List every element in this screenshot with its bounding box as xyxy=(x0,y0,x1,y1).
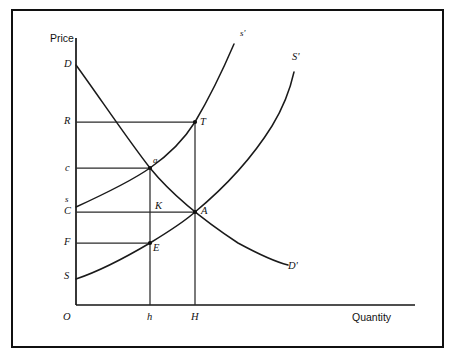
x-axis-title: Quantity xyxy=(352,312,391,323)
price-label-S: S xyxy=(64,271,69,282)
price-label-C: C xyxy=(64,206,71,217)
point-label-a: a xyxy=(153,156,158,165)
quantity-label-H: H xyxy=(191,312,199,323)
price-label-F: F xyxy=(64,237,70,248)
price-label-s: s xyxy=(65,195,69,204)
point-dot-E xyxy=(148,241,152,245)
supply-curve-S-prime xyxy=(76,72,294,279)
curve-label-D-prime: D' xyxy=(288,261,298,272)
point-dot-a xyxy=(148,166,152,170)
quantity-label-O: O xyxy=(63,312,71,323)
price-label-D: D xyxy=(64,59,72,70)
curve-label-s-prime: s' xyxy=(240,29,245,38)
figure-root: Price Quantity D R c s C F S O h H s' S'… xyxy=(0,0,456,357)
price-label-c: c xyxy=(65,163,70,174)
point-label-T: T xyxy=(200,117,206,128)
point-label-E: E xyxy=(153,243,159,254)
y-axis-title: Price xyxy=(50,33,74,44)
price-label-R: R xyxy=(64,116,70,127)
quantity-label-h: h xyxy=(147,312,152,323)
plot-canvas xyxy=(0,0,456,357)
supply-curve-s-prime xyxy=(76,44,234,207)
demand-curve-D-prime xyxy=(76,65,288,265)
point-dot-A xyxy=(193,210,197,214)
curve-label-S-prime: S' xyxy=(292,52,300,63)
point-label-A: A xyxy=(201,206,207,217)
point-dot-T xyxy=(193,120,197,124)
point-label-K: K xyxy=(155,201,162,212)
